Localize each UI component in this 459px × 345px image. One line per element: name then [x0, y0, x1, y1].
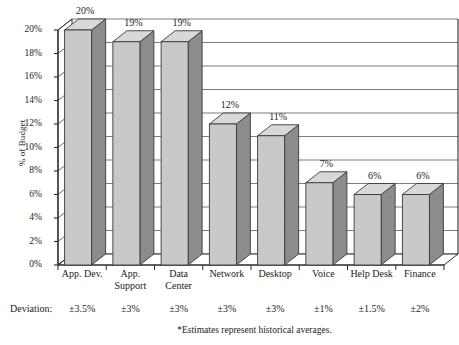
- bar-value-label: 20%: [58, 6, 113, 16]
- chart-footnote: *Estimates represent historical averages…: [0, 325, 459, 335]
- y-axis-tick-labels: 0%2%4%6%8%10%12%14%16%18%20%: [0, 0, 42, 345]
- bar-column: [402, 184, 443, 266]
- y-axis-tick-label: 18%: [10, 49, 42, 59]
- y-axis-tick-label: 20%: [10, 25, 42, 35]
- deviation-row-label: Deviation:: [10, 303, 52, 314]
- y-axis-tick-label: 14%: [10, 96, 42, 106]
- bar-value-label: 6%: [395, 171, 450, 181]
- y-axis-tick-label: 2%: [10, 237, 42, 247]
- bar-value-label: 19%: [154, 18, 209, 28]
- bar-chart: % of Budget 0%2%4%6%8%10%12%14%16%18%20%…: [0, 0, 459, 345]
- y-axis-tick-label: 12%: [10, 119, 42, 129]
- bar-column: [113, 31, 154, 265]
- bar-column: [354, 184, 395, 266]
- bar-column: [258, 125, 299, 265]
- x-axis-category-label: Finance: [390, 268, 450, 280]
- bar-value-label: 6%: [347, 171, 402, 181]
- bar-column: [209, 113, 250, 265]
- y-axis-tick-label: 16%: [10, 72, 42, 82]
- y-axis-tick-label: 0%: [10, 260, 42, 270]
- bar-value-label: 12%: [202, 100, 257, 110]
- deviation-value: ±2%: [390, 303, 450, 314]
- y-axis-tick-label: 8%: [10, 166, 42, 176]
- y-axis-tick-label: 4%: [10, 213, 42, 223]
- y-axis-tick-label: 10%: [10, 143, 42, 153]
- bar-column: [161, 31, 202, 265]
- bar-column: [306, 172, 347, 265]
- bar-value-label: 7%: [299, 159, 354, 169]
- bar-value-label: 11%: [251, 112, 306, 122]
- bar-value-label: 19%: [106, 18, 161, 28]
- y-axis-tick-label: 6%: [10, 190, 42, 200]
- bar-column: [65, 19, 106, 265]
